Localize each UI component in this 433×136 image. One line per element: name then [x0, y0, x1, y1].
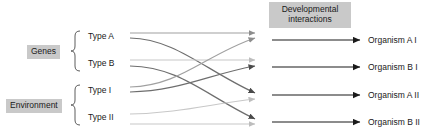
group-label-genes: Genes: [27, 45, 60, 59]
output-label-organism-a-i: Organism A I: [368, 36, 417, 45]
output-label-organism-b-i: Organism B I: [368, 63, 418, 72]
input-label-type-a: Type A: [88, 32, 114, 41]
diagram-canvas: Developmental interactions Genes Environ…: [0, 0, 433, 136]
output-label-organism-a-ii: Organism A II: [368, 91, 419, 100]
header-line-2: interactions: [288, 14, 331, 24]
input-label-type-i: Type I: [88, 86, 111, 95]
link-typeII-orgAII: [130, 99, 255, 114]
header-line-1: Developmental: [282, 4, 339, 14]
brace-environment: [71, 85, 80, 125]
output-label-organism-b-ii: Organism B II: [368, 118, 420, 127]
brace-genes: [71, 31, 80, 71]
input-label-type-ii: Type II: [88, 113, 114, 122]
developmental-interactions-header: Developmental interactions: [269, 2, 351, 28]
link-typeI-orgBI: [130, 66, 255, 92]
group-label-environment: Environment: [6, 99, 62, 113]
input-label-type-b: Type B: [88, 59, 114, 68]
link-typeI-orgAI: [130, 38, 255, 87]
link-typeB-orgBII: [130, 66, 255, 119]
